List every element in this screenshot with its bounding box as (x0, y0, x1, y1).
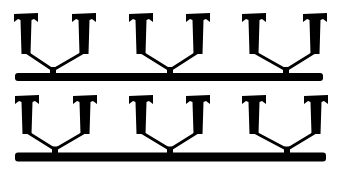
fork-branch-right (287, 132, 316, 150)
fork-branch-left (27, 132, 55, 150)
fork-branch-right (170, 132, 198, 150)
fork-junction (283, 67, 289, 74)
t-glyph-right (303, 13, 327, 54)
fork-junction (167, 147, 173, 154)
t-glyph-left (129, 13, 153, 54)
fork-branch-left (26, 52, 53, 70)
fork-junction (167, 67, 173, 74)
t-glyph-right (72, 13, 96, 54)
t-glyph-right (186, 13, 210, 54)
fork-branch-right (55, 132, 85, 150)
fork-branch-right (286, 52, 315, 70)
fork-junction (284, 147, 290, 154)
fork-branch-left (254, 132, 287, 150)
t-glyph-right (73, 95, 97, 134)
forked-t-pattern-figure (0, 0, 339, 172)
t-glyph-right (186, 95, 210, 134)
t-glyph-right (304, 95, 328, 134)
fork-branch-left (254, 52, 286, 70)
t-glyph-left (242, 95, 266, 134)
fork-junction (52, 147, 58, 154)
fork-branch-left (141, 52, 170, 70)
t-glyph-left (15, 95, 39, 134)
baseline-bar (15, 153, 326, 162)
t-glyph-left (129, 95, 153, 134)
fork-branch-left (141, 132, 170, 150)
fork-branch-right (170, 52, 198, 70)
t-glyph-left (14, 13, 38, 54)
fork-branch-right (53, 52, 84, 70)
t-glyph-left (242, 13, 266, 54)
fork-junction (50, 67, 56, 74)
baseline-bar (15, 73, 323, 81)
